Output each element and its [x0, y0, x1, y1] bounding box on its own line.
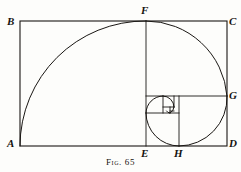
vertex-label-D: D [229, 138, 237, 149]
vertex-label-C: C [229, 16, 236, 27]
vertex-label-G: G [229, 90, 237, 101]
arc-H-to-I [146, 113, 179, 146]
outer-golden-rectangle [20, 21, 227, 146]
arc-J-to-K [163, 96, 174, 107]
vertex-label-A: A [7, 138, 14, 149]
arc-A-to-F [20, 21, 146, 146]
arc-F-to-G [146, 21, 227, 96]
golden-spiral-diagram [0, 0, 241, 172]
vertex-label-B: B [7, 16, 14, 27]
arc-K-to-L [170, 107, 174, 113]
division-lines-group [146, 21, 227, 146]
figure-caption: Fig. 65 [0, 158, 241, 167]
figure-container: B F C G A E H D Fig. 65 [0, 0, 241, 172]
fibonacci-spiral-group [20, 21, 227, 146]
vertex-label-F: F [141, 5, 148, 16]
arc-I-to-J [146, 96, 163, 113]
outer-rectangle-group [20, 21, 227, 146]
arc-G-to-H [179, 96, 227, 146]
